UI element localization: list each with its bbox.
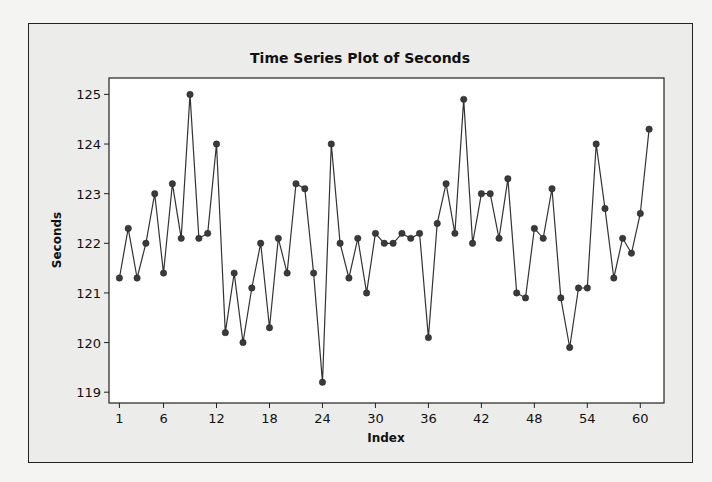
data-point <box>540 235 546 241</box>
data-point <box>611 275 617 281</box>
data-point <box>355 235 361 241</box>
data-point <box>169 181 175 187</box>
y-tick-label: 121 <box>76 286 101 301</box>
data-point <box>566 344 572 350</box>
data-point <box>187 91 193 97</box>
data-point <box>416 230 422 236</box>
data-point <box>116 275 122 281</box>
data-point <box>487 190 493 196</box>
data-point <box>390 240 396 246</box>
data-point <box>452 230 458 236</box>
data-point <box>425 334 431 340</box>
data-point <box>558 295 564 301</box>
x-tick-label: 54 <box>579 411 596 426</box>
data-point <box>584 285 590 291</box>
x-tick-label: 6 <box>159 411 167 426</box>
y-axis: 119120121122123124125 <box>76 87 109 400</box>
data-point <box>513 290 519 296</box>
data-point <box>284 270 290 276</box>
x-tick-label: 36 <box>420 411 437 426</box>
data-point <box>204 230 210 236</box>
data-point <box>593 141 599 147</box>
x-tick-label: 18 <box>261 411 278 426</box>
data-point <box>213 141 219 147</box>
data-point <box>372 230 378 236</box>
data-point <box>602 205 608 211</box>
data-point <box>469 240 475 246</box>
x-tick-label: 30 <box>367 411 384 426</box>
data-point <box>196 235 202 241</box>
data-point <box>443 181 449 187</box>
data-point <box>646 126 652 132</box>
y-tick-label: 122 <box>76 236 101 251</box>
data-point <box>522 295 528 301</box>
x-axis: 16121824303642485460 <box>115 403 648 426</box>
data-point <box>328 141 334 147</box>
x-tick-label: 60 <box>632 411 649 426</box>
data-point <box>240 339 246 345</box>
x-tick-label: 42 <box>473 411 490 426</box>
data-point <box>628 250 634 256</box>
y-tick-label: 123 <box>76 187 101 202</box>
data-point <box>461 96 467 102</box>
y-tick-label: 124 <box>76 137 101 152</box>
data-point <box>266 324 272 330</box>
data-point <box>257 240 263 246</box>
data-point <box>381 240 387 246</box>
y-tick-label: 120 <box>76 336 101 351</box>
data-point <box>143 240 149 246</box>
data-point <box>302 186 308 192</box>
data-point <box>408 235 414 241</box>
data-point <box>496 235 502 241</box>
data-point <box>478 190 484 196</box>
data-point <box>222 329 228 335</box>
data-point <box>619 235 625 241</box>
x-tick-label: 48 <box>526 411 543 426</box>
x-tick-label: 12 <box>208 411 225 426</box>
data-point <box>531 225 537 231</box>
data-point <box>575 285 581 291</box>
data-point <box>434 220 440 226</box>
y-tick-label: 119 <box>76 385 101 400</box>
data-point <box>549 186 555 192</box>
time-series-chart: Time Series Plot of Seconds 119120121122… <box>0 0 712 482</box>
data-point <box>152 190 158 196</box>
x-tick-label: 1 <box>115 411 123 426</box>
data-point <box>231 270 237 276</box>
data-point <box>134 275 140 281</box>
y-axis-label: Seconds <box>50 212 64 268</box>
data-point <box>346 275 352 281</box>
x-tick-label: 24 <box>314 411 331 426</box>
data-point <box>125 225 131 231</box>
data-point <box>399 230 405 236</box>
data-point <box>293 181 299 187</box>
data-point <box>275 235 281 241</box>
data-point <box>249 285 255 291</box>
data-point <box>160 270 166 276</box>
data-point <box>319 379 325 385</box>
data-point <box>310 270 316 276</box>
chart-title: Time Series Plot of Seconds <box>250 50 470 66</box>
data-point <box>505 176 511 182</box>
y-tick-label: 125 <box>76 87 101 102</box>
data-point <box>337 240 343 246</box>
data-point <box>363 290 369 296</box>
x-axis-label: Index <box>367 431 405 445</box>
data-point <box>178 235 184 241</box>
data-point <box>637 210 643 216</box>
